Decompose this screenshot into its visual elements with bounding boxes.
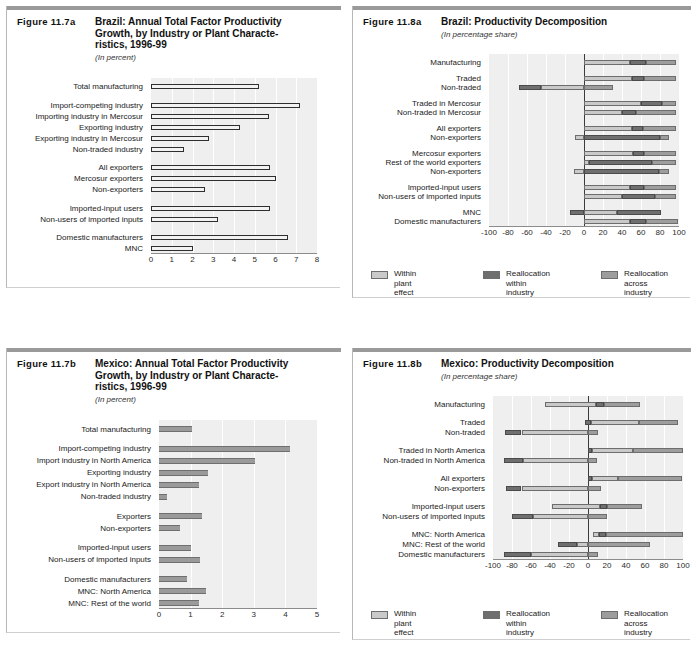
chart-gridline — [527, 54, 528, 226]
bar — [151, 84, 259, 89]
category-label: Traded — [353, 418, 485, 427]
category-label: MNC: Rest of the world — [7, 599, 151, 608]
category-label: Exporters — [7, 512, 151, 521]
x-axis-tick-label: 2 — [208, 610, 236, 619]
bar-segment — [584, 185, 630, 190]
category-label: Non-traded — [353, 83, 481, 92]
bar-segment — [584, 169, 659, 174]
category-label: Exporting industry — [7, 468, 151, 477]
figure-header: Figure 11.7b Mexico: Annual Total Factor… — [17, 358, 334, 404]
bar-segment — [512, 514, 533, 519]
category-label: Total manufacturing — [7, 82, 143, 91]
bar — [151, 103, 300, 108]
bar-segment — [533, 514, 588, 519]
x-axis-line — [489, 226, 679, 227]
bar — [151, 125, 240, 130]
chart-gridline — [508, 54, 509, 226]
panel-fig-11-8a: Figure 11.8a Brazil: Productivity Decomp… — [352, 6, 690, 298]
bar-segment — [596, 402, 605, 407]
category-label: Traded — [353, 74, 481, 83]
bar-segment — [643, 126, 676, 131]
category-label: Importing industry in Mercosur — [7, 112, 143, 121]
figure-number: Figure 11.8a — [363, 16, 441, 27]
category-label: Manufacturing — [353, 400, 485, 409]
category-label: Imported-input users — [353, 183, 481, 192]
bar-segment — [617, 210, 661, 215]
bar-segment — [604, 402, 640, 407]
figures-page: Figure 11.7a Brazil: Annual Total Factor… — [0, 0, 696, 647]
figure-subtitle: (In percentage share) — [441, 30, 676, 39]
x-axis-tick-label: 5 — [303, 610, 331, 619]
bar — [151, 246, 193, 251]
figure-title-line-1: Brazil: Productivity Decomposition — [441, 16, 676, 28]
category-label: Import industry in North America — [7, 456, 151, 465]
chart-gridline — [569, 396, 570, 559]
bar-segment — [646, 219, 678, 224]
bar — [151, 114, 269, 119]
bar-segment — [577, 542, 588, 547]
category-label: Rest of the world exporters — [353, 158, 481, 167]
legend-swatch-icon — [601, 271, 618, 279]
chart-plot-fig-11-8b: ManufacturingTradedNon-tradedTraded in N… — [353, 396, 691, 596]
chart-gridline — [565, 54, 566, 226]
x-axis-line — [493, 559, 683, 560]
figure-header: Figure 11.7a Brazil: Annual Total Factor… — [17, 16, 334, 62]
x-axis-line — [159, 608, 317, 609]
panel-fig-11-8b: Figure 11.8b Mexico: Productivity Decomp… — [352, 348, 690, 640]
bar-segment — [606, 532, 683, 537]
bar — [159, 600, 199, 606]
chart-plot-fig-11-7b: Total manufacturingImport-competing indu… — [7, 420, 341, 620]
category-label: Non-traded industry — [7, 145, 143, 154]
bar-segment — [644, 76, 676, 81]
category-label: Domestic manufacturers — [7, 575, 151, 584]
figure-number: Figure 11.7b — [17, 358, 95, 369]
chart-gridline — [546, 54, 547, 226]
bar-segment — [504, 552, 531, 557]
bar — [151, 206, 270, 211]
legend-swatch-icon — [483, 271, 500, 279]
x-axis-tick-label: 8 — [303, 255, 331, 264]
figure-subtitle: (In percent) — [95, 395, 330, 404]
bar — [159, 588, 206, 594]
bar-segment — [592, 448, 633, 453]
chart-gridline — [683, 396, 684, 559]
bar-segment — [618, 476, 682, 481]
bar-segment — [545, 402, 595, 407]
legend-label: Reallocation across industry — [624, 609, 668, 638]
bar-segment — [652, 160, 676, 165]
figure-subtitle: (In percentage share) — [441, 372, 676, 381]
category-label: MNC: Rest of the world — [353, 540, 485, 549]
bar-segment — [588, 458, 597, 463]
category-label: Total manufacturing — [7, 425, 151, 434]
category-label: Non-users of imported inputs — [353, 512, 485, 521]
panel-top-rule — [7, 6, 341, 10]
x-axis-tick-label: 100 — [669, 561, 696, 570]
chart-gridline — [317, 78, 318, 253]
bar — [151, 187, 205, 192]
bar — [159, 513, 202, 519]
bar-segment — [588, 542, 650, 547]
panel-top-rule — [353, 6, 691, 10]
bar-segment — [584, 219, 630, 224]
figure-title-line-3: ristics, 1996-99 — [95, 381, 330, 393]
bar-segment — [639, 420, 678, 425]
x-axis-line — [151, 253, 317, 254]
figure-title-line-1: Mexico: Annual Total Factor Productivity — [95, 358, 330, 370]
x-axis-tick-label: 3 — [240, 610, 268, 619]
bar-segment — [584, 126, 632, 131]
category-label: Mercosur exporters — [353, 149, 481, 158]
bar — [159, 446, 290, 452]
category-label: All exporters — [353, 474, 485, 483]
category-label: Non-traded in North America — [353, 456, 485, 465]
bar-segment — [630, 219, 646, 224]
bar — [151, 147, 184, 152]
bar-segment — [630, 185, 644, 190]
chart-gridline — [679, 54, 680, 226]
bar-segment — [584, 110, 622, 115]
figure-title-line-3: ristics, 1996-99 — [95, 39, 330, 51]
bar-segment — [552, 504, 600, 509]
bar-segment — [584, 85, 613, 90]
bar — [151, 217, 218, 222]
category-label: All exporters — [353, 124, 481, 133]
category-label: Non-traded — [353, 428, 485, 437]
